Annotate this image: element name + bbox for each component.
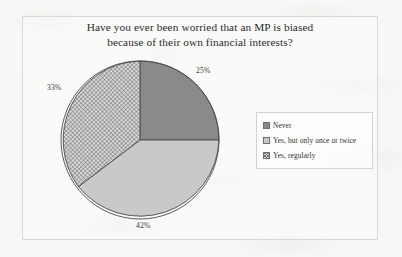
chart-page: Have you ever been worried that an MP is… bbox=[0, 0, 402, 257]
legend-label-never: Never bbox=[273, 121, 292, 130]
legend-swatch-once-or-twice-icon bbox=[263, 137, 270, 144]
legend-swatch-never-icon bbox=[263, 122, 270, 129]
chart-title-line-1: Have you ever been worried that an MP is… bbox=[30, 20, 370, 35]
legend-item-never: Never bbox=[263, 118, 368, 133]
chart-legend: Never Yes, but only once or twice Yes, r… bbox=[256, 112, 373, 169]
pie-label-never: 25% bbox=[196, 66, 211, 75]
pie-chart-svg bbox=[60, 60, 220, 220]
pie-label-once-or-twice: 42% bbox=[136, 221, 151, 230]
legend-item-once-or-twice: Yes, but only once or twice bbox=[263, 133, 368, 148]
chart-title: Have you ever been worried that an MP is… bbox=[30, 20, 370, 50]
legend-swatch-regularly-icon bbox=[263, 152, 270, 159]
chart-title-line-2: because of their own financial interests… bbox=[30, 35, 370, 50]
legend-label-once-or-twice: Yes, but only once or twice bbox=[273, 136, 356, 145]
legend-item-regularly: Yes, regularly bbox=[263, 148, 368, 163]
legend-label-regularly: Yes, regularly bbox=[273, 151, 316, 160]
pie-chart bbox=[60, 60, 220, 220]
pie-label-regularly: 33% bbox=[47, 83, 62, 92]
